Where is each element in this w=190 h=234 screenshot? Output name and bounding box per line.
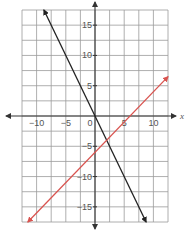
x-tick-label: 10 xyxy=(148,118,158,128)
y-tick-label: 10 xyxy=(82,50,92,60)
y-tick-label: 5 xyxy=(87,81,92,91)
x-tick-label: −10 xyxy=(29,118,44,128)
coordinate-plane-chart: −10−5051015105−5−10−15 x xyxy=(0,0,190,234)
x-tick-label: 0 xyxy=(87,118,92,128)
x-tick-label: −5 xyxy=(61,118,71,128)
y-tick-label: −15 xyxy=(77,202,92,212)
y-tick-label: 15 xyxy=(82,20,92,30)
axes xyxy=(6,2,176,229)
x-axis-label: x xyxy=(179,111,184,121)
y-tick-label: −5 xyxy=(82,141,92,151)
y-tick-label: −10 xyxy=(77,172,92,182)
